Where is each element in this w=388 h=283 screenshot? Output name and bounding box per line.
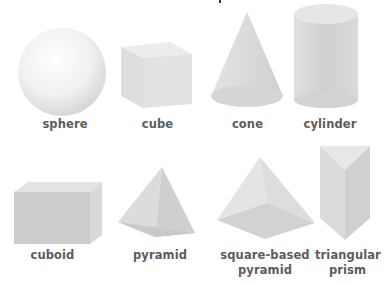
triangular-prism-shape: [318, 142, 373, 242]
pyramid-label: pyramid: [120, 248, 200, 263]
cone-shape: [205, 10, 290, 110]
cube-shape: [118, 40, 198, 112]
triangular-prism-label: triangular prism: [315, 248, 380, 278]
pyramid-shape: [115, 165, 200, 245]
triangular-prism-label-line1: triangular: [315, 248, 380, 263]
triangular-prism-label-line2: prism: [315, 263, 380, 278]
cone-label: cone: [210, 117, 285, 132]
square-based-pyramid-label-line1: square-based: [215, 248, 315, 263]
square-based-pyramid-label: square-based pyramid: [215, 248, 315, 278]
square-based-pyramid-label-line2: pyramid: [215, 263, 315, 278]
sphere-label: sphere: [20, 117, 110, 132]
square-based-pyramid-shape: [215, 155, 315, 245]
cuboid-label: cuboid: [15, 248, 90, 263]
cylinder-shape: [290, 2, 365, 110]
cube-label: cube: [120, 117, 195, 132]
cylinder-label: cylinder: [290, 117, 370, 132]
top-mark: [219, 0, 221, 3]
sphere-shape: [15, 25, 110, 120]
cuboid-shape: [10, 180, 105, 250]
